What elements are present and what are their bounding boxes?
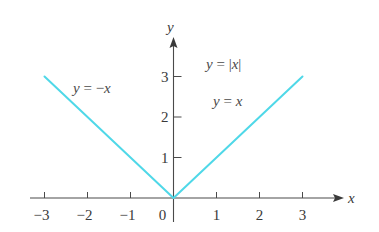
x-tick-label: 1 (213, 207, 221, 223)
y-tick-label: 3 (161, 69, 169, 85)
y-axis: y 123 (161, 19, 182, 222)
label-y-eq-abs-x: y = |x| (204, 56, 241, 72)
x-axis: x −3−2−10123 (30, 190, 355, 223)
x-tick-label: 2 (256, 207, 264, 223)
x-tick-label: −3 (34, 207, 50, 223)
x-tick-label: −1 (120, 207, 136, 223)
label-y-eq-x: y = x (211, 93, 243, 109)
x-axis-label: x (347, 190, 355, 206)
x-ticks: −3−2−10123 (34, 192, 307, 223)
label-y-eq-neg-x: y = −x (71, 80, 111, 96)
absolute-value-graph: x −3−2−10123 y 123 y = −x y = |x| y = x (0, 0, 379, 232)
x-tick-label: 0 (159, 207, 167, 223)
x-tick-label: −2 (77, 207, 93, 223)
y-ticks: 123 (161, 69, 182, 166)
y-axis-label: y (165, 19, 174, 35)
y-tick-label: 1 (161, 150, 169, 166)
x-tick-label: 3 (299, 207, 307, 223)
y-tick-label: 2 (161, 109, 169, 125)
